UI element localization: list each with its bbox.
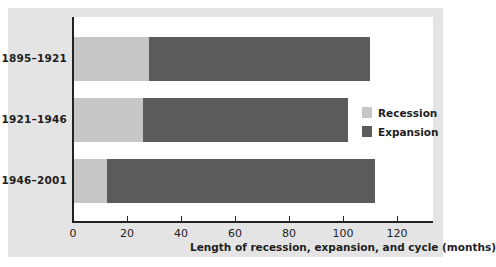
bar-segment-recession — [73, 159, 107, 203]
x-tick-label: 120 — [387, 227, 408, 240]
legend-item-expansion: Expansion — [362, 122, 439, 141]
x-tick-label: 40 — [174, 227, 188, 240]
x-tick-label: 20 — [120, 227, 134, 240]
bar-segment-recession — [73, 37, 149, 81]
x-tick-mark — [181, 216, 182, 222]
x-tick-label: 60 — [228, 227, 242, 240]
x-tick-mark — [289, 216, 290, 222]
legend-swatch-recession-icon — [362, 107, 372, 118]
x-tick-label: 80 — [282, 227, 296, 240]
legend-swatch-expansion-icon — [362, 126, 372, 137]
x-tick-mark — [235, 216, 236, 222]
bar-1895-1921 — [73, 37, 370, 81]
bar-segment-expansion — [149, 37, 370, 81]
x-tick-label: 100 — [333, 227, 354, 240]
bar-1946-2001 — [73, 159, 375, 203]
y-axis-line — [72, 17, 74, 222]
x-tick-label: 0 — [70, 227, 77, 240]
legend-item-recession: Recession — [362, 103, 439, 122]
y-label-1921-1946: 1921–1946 — [2, 113, 68, 125]
y-label-1895-1921: 1895–1921 — [2, 52, 68, 64]
bar-segment-recession — [73, 98, 143, 142]
legend: Recession Expansion — [362, 103, 439, 141]
bar-1921-1946 — [73, 98, 348, 142]
bar-segment-expansion — [143, 98, 348, 142]
x-tick-mark — [397, 216, 398, 222]
x-axis-label: Length of recession, expansion, and cycl… — [190, 241, 496, 253]
x-tick-mark — [127, 216, 128, 222]
legend-label-recession: Recession — [378, 107, 437, 119]
legend-label-expansion: Expansion — [378, 126, 439, 138]
bar-segment-expansion — [107, 159, 376, 203]
x-tick-mark — [343, 216, 344, 222]
y-label-1946-2001: 1946–2001 — [2, 174, 68, 186]
